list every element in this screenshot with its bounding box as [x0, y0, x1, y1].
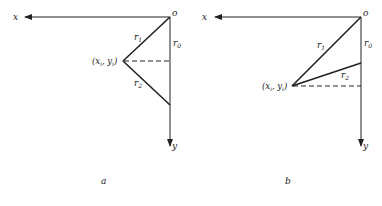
r1-line-a: [123, 17, 170, 61]
r2-label-b: r2: [341, 70, 349, 81]
r2-line-b: [292, 63, 361, 86]
caption-a: a: [101, 176, 106, 186]
r0-label-b: r0: [364, 38, 372, 49]
diagram-canvas: x o y r1 r0 r2 (xi, yi) a x o y r1 r0 r2…: [0, 0, 382, 206]
x-axis-label-a: x: [13, 12, 18, 22]
y-axis-label-a: y: [171, 141, 178, 151]
panel-b: x o y r1 r0 r2 (xi, yi) b: [202, 8, 372, 186]
y-axis-label-b: y: [362, 141, 369, 151]
x-axis-label-b: x: [202, 12, 207, 22]
origin-label-a: o: [172, 8, 178, 18]
panel-a: x o y r1 r0 r2 (xi, yi) a: [13, 8, 181, 186]
r2-label-a: r2: [134, 78, 142, 89]
r1-line-b: [292, 17, 361, 86]
point-label-b: (xi, yi): [262, 81, 287, 92]
origin-label-b: o: [363, 8, 369, 18]
r1-label-a: r1: [134, 32, 142, 43]
point-label-a: (xi, yi): [92, 56, 117, 67]
r2-line-a: [123, 61, 170, 105]
r1-label-b: r1: [317, 40, 325, 51]
r0-label-a: r0: [173, 38, 181, 49]
caption-b: b: [285, 176, 291, 186]
